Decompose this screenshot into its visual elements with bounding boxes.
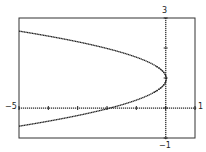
graph-canvas	[0, 0, 206, 152]
y-min-label: −1	[159, 142, 171, 150]
parabola-curve	[19, 31, 167, 127]
y-max-label: 3	[162, 7, 167, 15]
x-min-label: −5	[5, 103, 17, 111]
x-max-label: 1	[198, 103, 203, 111]
